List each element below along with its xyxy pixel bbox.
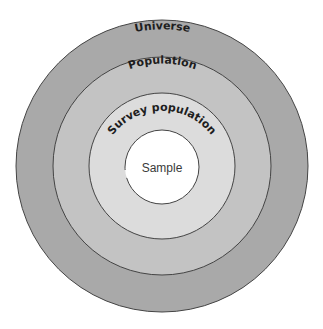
- sample-label: Sample: [142, 161, 183, 175]
- sampling-frame-diagram: Universe Population Survey population Sa…: [0, 0, 323, 329]
